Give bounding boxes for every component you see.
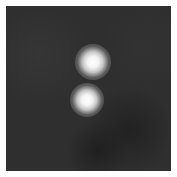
lower-point-source bbox=[70, 83, 104, 117]
upper-point-source bbox=[75, 44, 111, 80]
image-frame bbox=[6, 6, 171, 171]
